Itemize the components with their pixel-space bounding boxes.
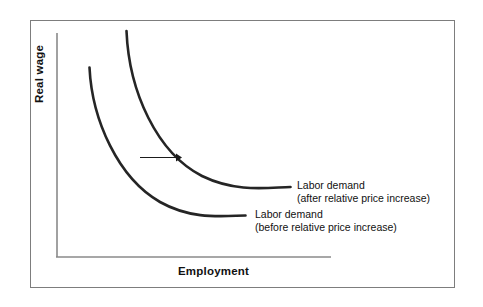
series-label-before: Labor demand (before relative price incr… (255, 208, 397, 233)
plot-svg (0, 0, 483, 307)
series-label-after: Labor demand (after relative price incre… (297, 179, 430, 204)
figure-container: Employment Real wage Labor demand (after… (0, 0, 483, 307)
y-axis-title: Real wage (33, 33, 45, 103)
x-axis-title: Employment (178, 265, 249, 277)
curve-labor-demand-after (127, 31, 291, 188)
series-label-after-line2: (after relative price increase) (297, 192, 430, 205)
series-label-before-line1: Labor demand (255, 208, 323, 220)
curve-labor-demand-before (90, 68, 246, 217)
series-label-before-line2: (before relative price increase) (255, 221, 397, 234)
series-label-after-line1: Labor demand (297, 179, 365, 191)
